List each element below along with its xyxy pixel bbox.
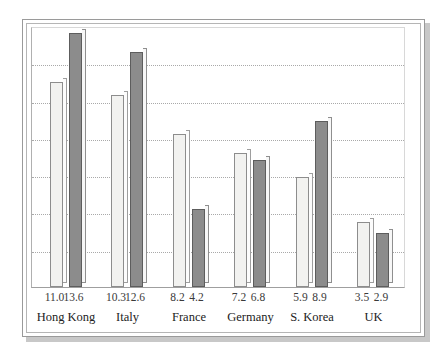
plot-area xyxy=(31,27,405,288)
bar-side-face xyxy=(328,117,332,283)
bar-uk-dark xyxy=(376,233,389,287)
bar-side-face xyxy=(370,218,374,283)
value-label: 6.8 xyxy=(243,291,273,303)
bar-front-face xyxy=(69,33,82,287)
bar-front-face xyxy=(130,52,143,287)
bar-side-face xyxy=(205,205,209,283)
category-label-s-korea: S. Korea xyxy=(290,310,334,325)
bar-france-light xyxy=(173,134,186,287)
bar-front-face xyxy=(357,222,370,287)
bar-italy-light xyxy=(111,95,124,287)
bar-germany-light xyxy=(234,153,247,287)
category-label-italy: Italy xyxy=(116,310,139,325)
bar-side-face xyxy=(247,149,251,283)
bar-side-face xyxy=(143,48,147,283)
bar-s-korea-dark xyxy=(315,121,328,287)
bar-front-face xyxy=(50,82,63,287)
bar-germany-dark xyxy=(253,160,266,287)
bar-side-face xyxy=(309,173,313,283)
value-label: 2.9 xyxy=(366,291,396,303)
bar-front-face xyxy=(315,121,328,287)
bar-side-face xyxy=(63,78,67,283)
bar-side-face xyxy=(82,29,86,283)
chart-figure: 11.013.610.312.68.24.27.26.85.98.93.52.9… xyxy=(0,0,441,363)
bar-s-korea-light xyxy=(296,177,309,287)
category-label-france: France xyxy=(172,310,206,325)
bar-front-face xyxy=(192,209,205,287)
bar-side-face xyxy=(186,130,190,283)
bar-side-face xyxy=(389,229,393,283)
value-label-row: 11.013.610.312.68.24.27.26.85.98.93.52.9 xyxy=(31,291,405,307)
bar-side-face xyxy=(124,91,128,283)
bar-front-face xyxy=(253,160,266,287)
bar-italy-dark xyxy=(130,52,143,287)
value-label: 13.6 xyxy=(59,291,89,303)
bar-front-face xyxy=(296,177,309,287)
bar-front-face xyxy=(376,233,389,287)
bar-front-face xyxy=(234,153,247,287)
category-label-germany: Germany xyxy=(227,310,274,325)
category-label-row: Hong KongItalyFranceGermanyS. KoreaUK xyxy=(31,310,405,326)
bar-series-container xyxy=(32,28,404,287)
bar-uk-light xyxy=(357,222,370,287)
value-label: 12.6 xyxy=(120,291,150,303)
bar-side-face xyxy=(266,156,270,283)
category-label-uk: UK xyxy=(364,310,382,325)
bar-hong-kong-light xyxy=(50,82,63,287)
bar-front-face xyxy=(173,134,186,287)
value-label: 8.9 xyxy=(305,291,335,303)
bar-front-face xyxy=(111,95,124,287)
category-label-hong-kong: Hong Kong xyxy=(37,310,96,325)
bar-france-dark xyxy=(192,209,205,287)
bar-hong-kong-dark xyxy=(69,33,82,287)
value-label: 4.2 xyxy=(182,291,212,303)
